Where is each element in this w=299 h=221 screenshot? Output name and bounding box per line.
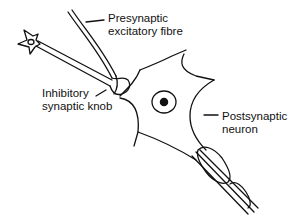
label-line: excitatory fibre [108,25,183,38]
label-presynaptic-fibre: Presynaptic excitatory fibre [108,12,183,38]
postsynaptic-cell-body [120,50,214,160]
label-postsynaptic-neuron: Postsynaptic neuron [222,110,287,136]
label-line: synaptic knob [42,100,112,113]
inhibitory-synaptic-knob [110,76,130,95]
label-line: Presynaptic [108,12,183,25]
myelinated-axon [192,147,258,214]
label-line: Inhibitory [42,87,112,100]
label-line: Postsynaptic [222,110,287,123]
label-line: neuron [222,123,287,136]
leader-line-presynaptic [86,20,104,22]
label-inhibitory-knob: Inhibitory synaptic knob [42,87,112,113]
inhibitory-neuron [18,30,112,86]
